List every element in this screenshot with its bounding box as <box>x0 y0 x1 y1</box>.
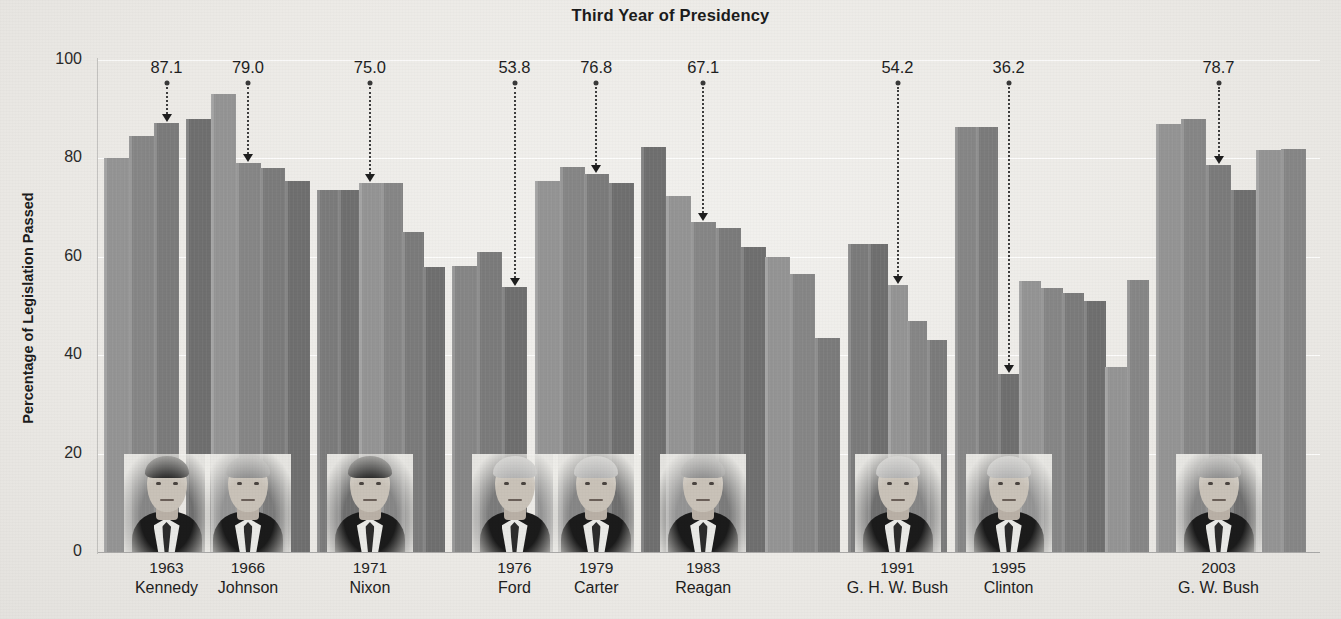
x-label-year: 1995 <box>984 558 1034 577</box>
chart-title: Third Year of Presidency <box>0 6 1341 25</box>
x-label-clinton: 1995Clinton <box>984 558 1034 598</box>
y-tick-label-20: 20 <box>20 444 82 462</box>
y-axis-label: Percentage of Legislation Passed <box>20 158 36 458</box>
x-label-name: Reagan <box>675 577 731 598</box>
x-label-year: 1971 <box>349 558 390 577</box>
x-label-carter: 1979Carter <box>574 558 618 598</box>
x-label-name: G. W. Bush <box>1178 577 1259 598</box>
x-label-year: 1979 <box>574 558 618 577</box>
y-tick-label-40: 40 <box>20 345 82 363</box>
x-label-name: Clinton <box>984 577 1034 598</box>
y-tick-label-80: 80 <box>20 148 82 166</box>
plot-area: 87.179.075.053.876.867.154.236.278.7 <box>98 60 1320 552</box>
x-label-reagan: 1983Reagan <box>675 558 731 598</box>
y-tick-label-60: 60 <box>20 247 82 265</box>
x-label-year: 1976 <box>497 558 531 577</box>
x-label-name: G. H. W. Bush <box>847 577 948 598</box>
x-label-johnson: 1966Johnson <box>218 558 279 598</box>
x-label-year: 1983 <box>675 558 731 577</box>
x-label-name: Ford <box>497 577 531 598</box>
x-label-nixon: 1971Nixon <box>349 558 390 598</box>
x-label-gwbush: 2003G. W. Bush <box>1178 558 1259 598</box>
callout-value: 78.7 <box>1202 58 1234 77</box>
x-label-name: Johnson <box>218 577 279 598</box>
y-tick-label-100: 100 <box>20 50 82 68</box>
x-label-kennedy: 1963Kennedy <box>135 558 198 598</box>
callout-arrow <box>1214 156 1224 164</box>
callout-gwbush: 78.7 <box>98 60 1320 552</box>
callout-dot <box>1216 81 1221 86</box>
x-label-name: Nixon <box>349 577 390 598</box>
x-label-ghwbush: 1991G. H. W. Bush <box>847 558 948 598</box>
y-tick-label-0: 0 <box>20 542 82 560</box>
x-label-year: 1966 <box>218 558 279 577</box>
x-label-name: Kennedy <box>135 577 198 598</box>
x-label-year: 1963 <box>135 558 198 577</box>
gridline-0 <box>98 552 1320 553</box>
callout-stem <box>1218 87 1220 156</box>
x-label-year: 2003 <box>1178 558 1259 577</box>
x-label-name: Carter <box>574 577 618 598</box>
x-label-ford: 1976Ford <box>497 558 531 598</box>
x-label-year: 1991 <box>847 558 948 577</box>
